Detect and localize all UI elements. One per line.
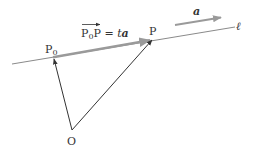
label-p: P <box>149 25 157 38</box>
label-line-l: ℓ <box>236 20 241 33</box>
vector-o-to-p <box>72 40 152 130</box>
vector-p0-to-p <box>53 40 150 57</box>
label-origin: O <box>67 135 76 148</box>
direction-vector-a <box>175 18 221 26</box>
equation-a: a <box>122 27 129 40</box>
svg-text:P0P = ta: P0P = ta <box>81 27 129 41</box>
equation-label: P0P = ta <box>81 25 129 42</box>
label-p0: P0 <box>45 43 58 57</box>
vector-o-to-p0 <box>54 59 72 130</box>
line-vector-diagram: P0 P O ℓ a P0P = ta <box>0 0 253 160</box>
label-direction-a: a <box>193 5 200 18</box>
equation-equals: = <box>101 27 117 40</box>
